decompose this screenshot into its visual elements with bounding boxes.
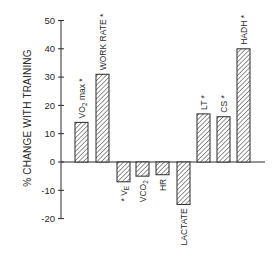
bar-work-rate — [96, 74, 109, 162]
bar-chart: 50403020100-10-20 VO2 max *WORK RATE ** … — [0, 0, 273, 257]
bar-label: HADH * — [239, 14, 249, 44]
bar-vo2-max — [75, 122, 88, 162]
bar-label: VCO2 — [138, 180, 150, 202]
bar-hr — [156, 162, 169, 175]
y-axis-title: % CHANGE WITH TRAINING — [22, 49, 33, 187]
bar-ve — [117, 162, 130, 182]
bar-label: CS * — [219, 95, 229, 113]
y-tick-label: -10 — [41, 185, 55, 196]
y-tick-label: 30 — [44, 71, 55, 82]
bar-label: * VE — [119, 185, 131, 201]
y-axis: 50403020100-10-20 — [41, 15, 64, 224]
bar-vco2 — [136, 162, 149, 176]
bar-hadh — [237, 49, 250, 162]
chart-canvas: 50403020100-10-20 VO2 max *WORK RATE ** … — [0, 0, 273, 257]
bar-lactate — [177, 162, 190, 204]
bar-label: VO2 max * — [77, 78, 89, 119]
bar-label: LACTATE — [179, 208, 189, 245]
bar-label: LT * — [199, 94, 209, 110]
y-tick-label: 0 — [50, 156, 55, 167]
y-tick-label: 50 — [44, 15, 55, 26]
y-tick-label: 20 — [44, 100, 55, 111]
bar-lt — [197, 114, 210, 162]
bar-label: WORK RATE * — [98, 13, 108, 70]
bar-cs — [217, 117, 230, 162]
bar-label: HR — [158, 179, 168, 191]
y-tick-label: -20 — [41, 213, 55, 224]
y-tick-label: 10 — [44, 128, 55, 139]
y-tick-label: 40 — [44, 43, 55, 54]
